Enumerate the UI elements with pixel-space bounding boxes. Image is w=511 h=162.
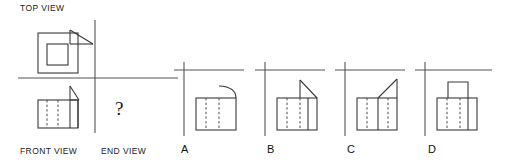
option-label-b[interactable]: B — [267, 143, 274, 155]
option-a-curved-profile — [219, 86, 236, 98]
option-a-rectangle — [196, 98, 236, 130]
option-d-drawing[interactable] — [415, 62, 492, 136]
projection-drawing-canvas — [0, 0, 511, 162]
top-view-drawing — [38, 30, 93, 73]
option-label-a[interactable]: A — [181, 143, 188, 155]
option-b-triangle-hypotenuse — [300, 80, 317, 98]
option-label-d[interactable]: D — [428, 143, 436, 155]
option-a-drawing[interactable] — [174, 62, 244, 136]
top-view-outer-square — [38, 33, 78, 73]
end-view-label: END VIEW — [101, 146, 146, 156]
option-b-rectangle — [277, 98, 317, 130]
option-b-drawing[interactable] — [255, 62, 325, 136]
option-label-c[interactable]: C — [347, 143, 355, 155]
top-view-inner-square — [47, 44, 68, 65]
top-view-label: TOP VIEW — [20, 3, 64, 13]
front-view-triangle-hypotenuse — [70, 86, 79, 100]
option-d-rectangle — [437, 98, 477, 130]
front-view-label: FRONT VIEW — [20, 146, 77, 156]
front-view-drawing — [38, 86, 79, 128]
option-d-raised-boss — [448, 82, 468, 98]
orthographic-projection-puzzle: TOP VIEW FRONT VIEW END VIEW ? A B C D — [0, 0, 511, 162]
main-projection-axes — [18, 20, 178, 133]
missing-view-question-mark: ? — [115, 98, 123, 120]
top-view-triangle-hypotenuse — [70, 30, 93, 44]
option-c-rectangle — [357, 98, 397, 130]
option-c-drawing[interactable] — [335, 62, 405, 136]
option-c-diagonal-edge — [378, 79, 397, 98]
